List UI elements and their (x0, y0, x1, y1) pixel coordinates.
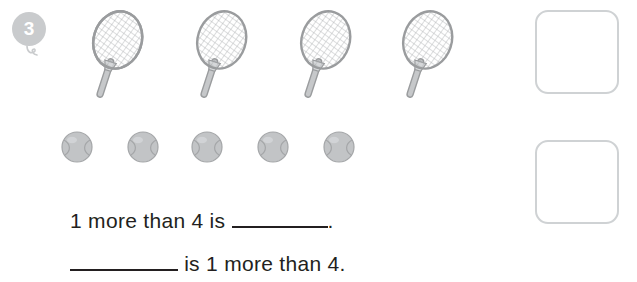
tennis-racket-icon (164, 8, 274, 108)
tennis-racket-icon (60, 8, 170, 108)
tennis-rackets-group (60, 8, 480, 108)
tennis-ball-icon (190, 130, 224, 164)
tennis-balls-group (60, 130, 360, 172)
sentence-two-after-blank: is 1 more than 4. (178, 252, 346, 275)
tennis-ball-icon (256, 130, 290, 164)
question-number-text: 3 (12, 12, 46, 46)
tennis-racket-icon (370, 8, 480, 108)
sentence-two-answer-blank[interactable] (70, 248, 178, 271)
sentence-one-before-blank: 1 more than 4 is (70, 209, 232, 232)
sentence-two: is 1 more than 4. (70, 248, 346, 276)
sentence-one-answer-blank[interactable] (232, 205, 328, 228)
tennis-ball-icon (60, 130, 94, 164)
badge-tail-icon (25, 45, 39, 59)
sentence-one-after-blank: . (328, 209, 334, 232)
tennis-ball-icon (126, 130, 160, 164)
sentence-one: 1 more than 4 is . (70, 205, 334, 233)
worksheet-page: 3 (0, 0, 637, 282)
tennis-ball-icon (322, 130, 356, 164)
answer-box-bottom[interactable] (535, 140, 619, 224)
answer-box-top[interactable] (535, 10, 619, 94)
tennis-racket-icon (268, 8, 378, 108)
question-number-badge: 3 (12, 12, 60, 64)
